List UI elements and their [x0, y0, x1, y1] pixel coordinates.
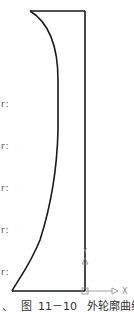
margin-mark: r : — [1, 268, 8, 277]
outer-contour-drawing: X Y — [0, 0, 134, 312]
y-axis-label: Y — [82, 247, 88, 255]
caption-label: 图 — [21, 300, 32, 312]
margin-mark: r : — [1, 142, 8, 151]
contour-figure: X Y r : r : r : r : r : 、图11－10外轮廓曲线 — [0, 0, 134, 312]
contour-curve — [12, 11, 58, 291]
margin-mark: r : — [1, 184, 8, 193]
margin-mark: r : — [1, 226, 8, 235]
x-axis-arrow-icon — [112, 288, 118, 294]
caption-number: 11－10 — [38, 300, 77, 312]
figure-caption: 、图11－10外轮廓曲线 — [0, 297, 134, 312]
margin-mark: r : — [1, 100, 8, 109]
x-axis-label: X — [122, 287, 128, 296]
caption-prefix: 、 — [2, 300, 13, 312]
caption-title: 外轮廓曲线 — [87, 300, 134, 312]
